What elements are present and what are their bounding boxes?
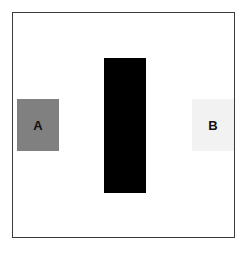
figure-panel: A B — [12, 12, 235, 238]
square-a-label: A — [17, 119, 59, 132]
figure-root: A B — [0, 0, 250, 253]
square-a: A — [17, 99, 59, 151]
square-b: B — [192, 99, 234, 151]
center-bar — [104, 58, 146, 193]
square-b-label: B — [192, 119, 234, 132]
